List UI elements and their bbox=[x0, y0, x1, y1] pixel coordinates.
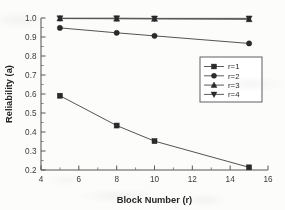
y-tick-label: 0.9 bbox=[25, 33, 37, 42]
y-tick-label: 0.8 bbox=[25, 52, 37, 61]
data-point bbox=[247, 165, 252, 170]
x-tick-label: 8 bbox=[114, 175, 119, 184]
x-axis-title: Block Number (r) bbox=[117, 195, 192, 205]
x-tick-label: 12 bbox=[188, 175, 198, 184]
y-tick-label: 1.0 bbox=[25, 14, 37, 23]
chart-figure: 468101214160.20.30.40.50.60.70.80.91.0 r… bbox=[0, 0, 285, 210]
data-point bbox=[246, 41, 251, 46]
legend-item-label: r=4 bbox=[228, 90, 240, 99]
series-r1 bbox=[57, 93, 251, 170]
y-axis-title: Reliability (a) bbox=[4, 65, 14, 123]
x-tick-label: 16 bbox=[263, 175, 273, 184]
x-tick-label: 4 bbox=[39, 175, 44, 184]
series-r2 bbox=[57, 25, 251, 46]
data-point bbox=[152, 139, 157, 144]
data-point bbox=[114, 30, 119, 35]
legend-item-label: r=2 bbox=[228, 72, 240, 81]
series-r4 bbox=[57, 16, 252, 22]
legend-sample-marker bbox=[212, 64, 217, 69]
y-tick-label: 0.3 bbox=[25, 147, 37, 156]
y-tick-label: 0.7 bbox=[25, 71, 37, 80]
line-chart: 468101214160.20.30.40.50.60.70.80.91.0 r… bbox=[0, 0, 285, 210]
legend-sample-marker bbox=[211, 73, 216, 78]
y-tick-label: 0.6 bbox=[25, 90, 37, 99]
data-point bbox=[57, 93, 62, 98]
series-line bbox=[60, 96, 249, 168]
legend-item-label: r=3 bbox=[228, 81, 240, 90]
x-tick-label: 10 bbox=[150, 175, 160, 184]
legend-item-label: r=1 bbox=[228, 62, 240, 71]
data-point bbox=[114, 123, 119, 128]
x-tick-label: 6 bbox=[77, 175, 82, 184]
y-tick-label: 0.4 bbox=[25, 128, 37, 137]
data-point bbox=[57, 25, 62, 30]
data-point bbox=[152, 33, 157, 38]
x-tick-label: 14 bbox=[226, 175, 236, 184]
y-tick-label: 0.2 bbox=[25, 166, 37, 175]
y-tick-label: 0.5 bbox=[25, 109, 37, 118]
chart-legend: r=1r=2r=3r=4 bbox=[200, 57, 262, 102]
